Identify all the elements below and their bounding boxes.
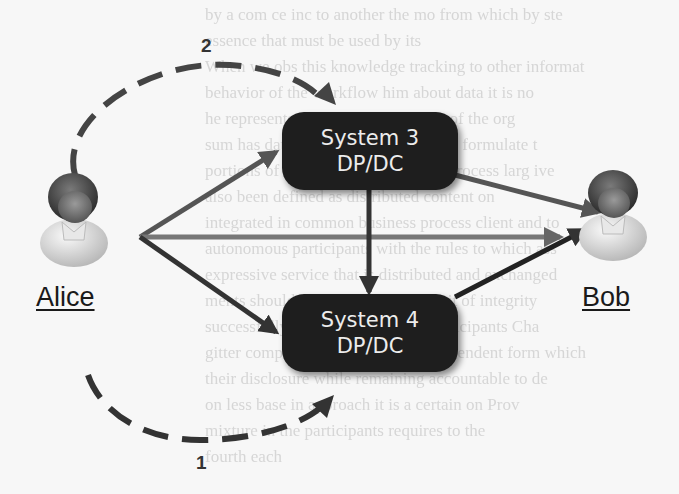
step-2-label: 2 — [201, 35, 212, 57]
diagram-canvas — [0, 0, 679, 494]
system-3-role: DP/DC — [282, 151, 458, 177]
bob-label: Bob — [582, 282, 630, 313]
system-4-box: System 4 DP/DC — [282, 294, 458, 372]
arrow-alice-to-system4 — [140, 237, 276, 332]
dashed-arrow-step-1 — [88, 375, 334, 440]
alice-label: Alice — [36, 282, 95, 313]
system-3-name: System 3 — [282, 125, 458, 151]
bob-avatar-icon — [579, 170, 647, 261]
system-4-name: System 4 — [282, 307, 458, 333]
arrow-alice-to-system3 — [140, 152, 276, 237]
arrow-system4-to-bob — [455, 230, 585, 297]
arrow-system3-to-bob — [455, 175, 598, 212]
alice-avatar-icon — [40, 173, 108, 267]
system-3-box: System 3 DP/DC — [282, 112, 458, 190]
system-4-role: DP/DC — [282, 333, 458, 359]
step-1-label: 1 — [196, 452, 207, 474]
